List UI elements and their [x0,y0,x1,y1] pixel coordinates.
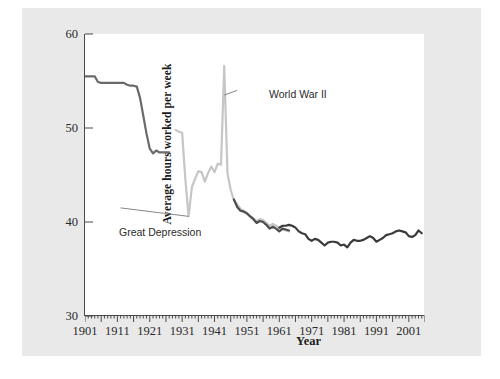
series-line-1 [85,76,169,153]
x-tick-label-1941: 1941 [202,324,227,339]
y-tick-label-60: 60 [66,27,79,42]
x-tick-label-1961: 1961 [267,324,292,339]
y-tick-label-30: 30 [66,309,79,324]
x-tick-label-1931: 1931 [170,324,195,339]
x-tick-label-2001: 2001 [396,324,421,339]
annotation-world-war-ii: World War II [269,88,327,100]
plot-area: Average hours worked per week 30405060 1… [84,34,424,316]
x-tick-label-1901: 1901 [73,324,98,339]
series-line-4 [279,225,421,248]
annotation-great-depression: Great Depression [119,226,201,238]
y-tick-label-50: 50 [66,121,79,136]
x-tick-label-1951: 1951 [234,324,259,339]
x-axis-title: Year [296,334,321,349]
x-tick-label-1911: 1911 [105,324,130,339]
chart-lines [85,34,425,316]
y-tick-label-40: 40 [66,215,79,230]
x-tick-label-1921: 1921 [137,324,162,339]
figure-panel: Average hours worked per week 30405060 1… [22,8,481,356]
x-tick-label-1991: 1991 [364,324,389,339]
x-tick-label-1981: 1981 [332,324,357,339]
